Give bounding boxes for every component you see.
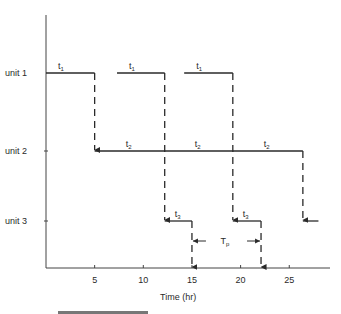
x-tick-label: 10 xyxy=(138,275,148,285)
x-tick-label: 5 xyxy=(92,275,97,285)
unit-3-task-label: t3 xyxy=(175,209,182,220)
x-tick-label: 20 xyxy=(236,275,246,285)
x-tick-label: 15 xyxy=(187,275,197,285)
period-label: Tp xyxy=(220,236,230,247)
period-arrow-right xyxy=(255,239,260,244)
unit-2-task-label: t2 xyxy=(264,139,271,150)
unit-1-label: unit 1 xyxy=(5,68,27,78)
unit-3-task-label: t3 xyxy=(243,209,250,220)
unit-2-task-label: t2 xyxy=(126,139,133,150)
unit-2-label: unit 2 xyxy=(5,146,27,156)
period-arrow-left xyxy=(193,239,198,244)
unit-2-task-label: t2 xyxy=(195,139,202,150)
unit-3-label: unit 3 xyxy=(5,216,27,226)
x-tick-label: 25 xyxy=(284,275,294,285)
unit-1-task-label: t1 xyxy=(196,61,203,72)
x-axis-label: Time (hr) xyxy=(160,292,196,302)
unit-1-task-label: t1 xyxy=(58,61,65,72)
unit-1-task-label: t1 xyxy=(129,61,136,72)
scheduling-diagram: unit 1 unit 2 unit 3 Time (hr) 510152025… xyxy=(0,0,341,314)
